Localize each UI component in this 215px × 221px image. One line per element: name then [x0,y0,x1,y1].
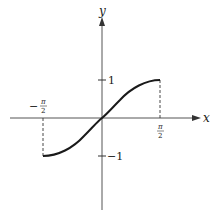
x-axis: x [10,111,210,125]
x-tick-pos-denominator: 2 [158,132,162,140]
x-tick-neg-half-pi: − π 2 [29,98,47,115]
x-tick-neg-sign: − [29,100,38,113]
y-axis-label: y [98,4,106,18]
y-axis-arrow-icon [99,17,105,26]
x-tick-pos-numerator: π [157,123,163,131]
x-axis-label: x [203,111,210,125]
x-axis-arrow-icon [192,115,201,121]
x-tick-neg-denominator: 2 [41,107,45,115]
y-tick-label-neg-one: −1 [107,150,123,163]
x-tick-pos-half-pi: π 2 [157,123,164,140]
sine-graph-figure: x y 1 −1 − π 2 π 2 [0,0,215,221]
y-axis: y [98,4,106,210]
x-tick-neg-numerator: π [40,98,46,106]
y-tick-pos-one: 1 [98,74,115,87]
y-tick-label-one: 1 [108,74,115,87]
